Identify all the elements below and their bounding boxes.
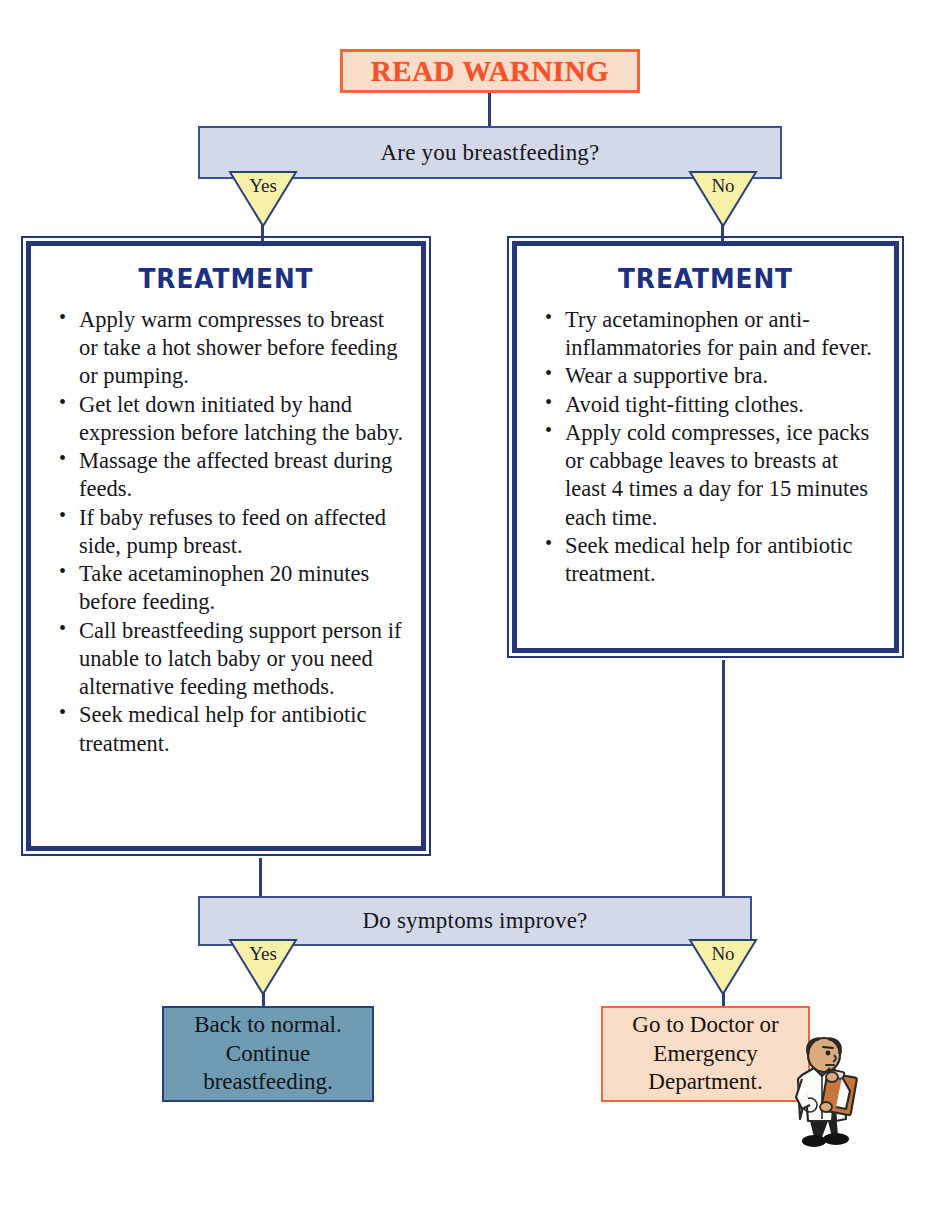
connector-treatment-left-down: [259, 858, 262, 898]
doctor-with-clipboard-icon: [774, 1035, 870, 1153]
flowchart-canvas: READ WARNING Are you breastfeeding? Yes …: [0, 0, 932, 1224]
connector-treatment-right-down: [722, 660, 725, 898]
read-warning-label: READ WARNING: [371, 55, 609, 88]
list-item: Massage the affected breast during feeds…: [57, 447, 405, 503]
list-item: Try acetaminophen or anti-inflammatories…: [543, 306, 878, 362]
triangle-down-icon: [688, 938, 758, 996]
outcome-normal-label: Back to normal. Continue breastfeeding.: [164, 1011, 372, 1098]
treatment-right-list: Try acetaminophen or anti-inflammatories…: [517, 306, 894, 588]
question-improve-label: Do symptoms improve?: [362, 908, 587, 934]
treatment-box-breastfeeding: TREATMENT Apply warm compresses to breas…: [26, 241, 426, 851]
list-item: Seek medical help for antibiotic treatme…: [57, 701, 405, 757]
treatment-right-heading: TREATMENT: [532, 263, 879, 294]
branch-no-improve: No: [688, 938, 758, 996]
treatment-left-heading: TREATMENT: [47, 263, 406, 294]
branch-yes-improve: Yes: [228, 938, 298, 996]
question-breastfeeding-label: Are you breastfeeding?: [381, 140, 600, 166]
list-item: Avoid tight-fitting clothes.: [543, 391, 878, 419]
treatment-left-list: Apply warm compresses to breast or take …: [31, 306, 421, 758]
list-item: Apply cold compresses, ice packs or cabb…: [543, 419, 878, 532]
list-item: Call breastfeeding support person if una…: [57, 617, 405, 702]
list-item: Wear a supportive bra.: [543, 362, 878, 390]
triangle-down-icon: [228, 938, 298, 996]
treatment-box-not-breastfeeding: TREATMENT Try acetaminophen or anti-infl…: [512, 241, 899, 653]
list-item: If baby refuses to feed on affected side…: [57, 504, 405, 560]
list-item: Seek medical help for antibiotic treatme…: [543, 532, 878, 588]
read-warning-banner: READ WARNING: [340, 49, 640, 93]
list-item: Apply warm compresses to breast or take …: [57, 306, 405, 391]
outcome-back-to-normal: Back to normal. Continue breastfeeding.: [162, 1006, 374, 1102]
list-item: Get let down initiated by hand expressio…: [57, 391, 405, 447]
triangle-down-icon: [688, 170, 758, 228]
list-item: Take acetaminophen 20 minutes before fee…: [57, 560, 405, 616]
branch-yes-breastfeeding: Yes: [228, 170, 298, 228]
triangle-down-icon: [228, 170, 298, 228]
connector-warning-to-question: [488, 92, 491, 128]
branch-no-breastfeeding: No: [688, 170, 758, 228]
